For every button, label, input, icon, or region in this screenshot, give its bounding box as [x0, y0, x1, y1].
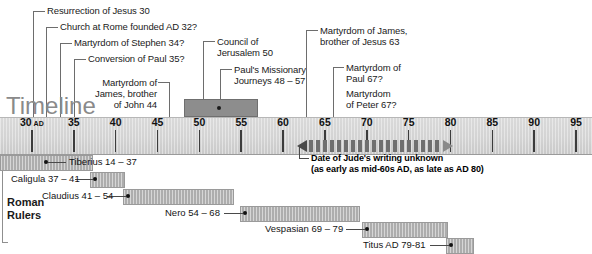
ruler-dot-claudius: [126, 194, 130, 198]
axis-tick-label-85: 85: [487, 116, 499, 128]
ruler-label-caligula: Caligula 37 – 41: [11, 173, 80, 184]
ruler-bar-claudius: [123, 189, 234, 205]
event-label-paul-journeys: Paul's Missionary Journeys 48 – 57: [234, 64, 306, 86]
axis-tick-label-40: 40: [110, 116, 122, 128]
axis-tick-label-95: 95: [570, 116, 582, 128]
ruler-bar-nero: [240, 206, 360, 222]
axis-tick-label-45: 45: [152, 116, 164, 128]
leader-v-james-jesus: [306, 30, 307, 118]
ruler-label-vespasian: Vespasian 69 – 79: [265, 223, 343, 234]
axis-tick-label-75: 75: [403, 116, 415, 128]
axis-tick-90: [533, 130, 535, 152]
ruler-label-claudius: Claudius 41 – 54: [42, 190, 113, 201]
axis-tick-35: [73, 130, 75, 152]
axis-tick-95: [575, 130, 577, 152]
axis-tick-label-30: 30 AD: [20, 116, 44, 128]
event-label-stephen: Martyrdom of Stephen 34?: [74, 38, 184, 49]
ruler-leader-titus: [430, 245, 449, 246]
leader-h-council: [203, 41, 215, 42]
jude-caption-line1: Date of Jude's writing unknown: [311, 153, 443, 164]
ruler-dot-vespasian: [365, 227, 369, 231]
event-label-peter-martyrdom: Martyrdom of Peter 67?: [346, 88, 397, 110]
ruler-label-titus: Titus AD 79-81: [363, 239, 425, 250]
leader-h-paul-journeys: [220, 69, 232, 70]
jude-leader-v: [299, 146, 300, 158]
jude-caption-line2: (as early as mid-60s AD, as late as AD 8…: [311, 164, 484, 175]
leader-v-paul-martyrdom: [333, 67, 334, 118]
event-label-james-jesus: Martyrdom of James, brother of Jesus 63: [320, 25, 407, 47]
ruler-leader-nero: [224, 213, 243, 214]
ruler-bar-vespasian: [362, 222, 448, 238]
ruler-label-tiberius: Tiberius 14 – 37: [69, 156, 137, 167]
jude-range-arrow: [296, 138, 461, 154]
jude-leader-h: [299, 158, 309, 159]
event-bar-paul-journeys: [184, 99, 258, 117]
leader-h-james-jesus: [306, 30, 318, 31]
axis-tick-55: [240, 130, 242, 152]
leader-h-stephen: [60, 43, 72, 44]
event-label-council-jerusalem: Council of Jerusalem 50: [217, 36, 273, 58]
axis-tick-label-50: 50: [194, 116, 206, 128]
event-bar-marker-dot: [217, 106, 221, 110]
event-label-paul-martyrdom: Martyrdom of Paul 67?: [346, 62, 401, 84]
ruler-dot-caligula: [93, 177, 97, 181]
axis-tick-label-90: 90: [528, 116, 540, 128]
ruler-dot-titus: [449, 243, 453, 247]
event-label-church-rome: Church at Rome founded AD 32?: [60, 22, 197, 33]
ruler-leader-vespasian: [346, 229, 365, 230]
axis-tick-label-55: 55: [235, 116, 247, 128]
axis-tick-label-65: 65: [319, 116, 331, 128]
leader-h-resurrection: [33, 11, 45, 12]
axis-tick-era-suffix: AD: [32, 120, 44, 127]
leader-h-church-rome: [46, 27, 58, 28]
axis-tick-30: [31, 130, 33, 152]
event-label-conversion-paul: Conversion of Paul 35?: [88, 54, 185, 65]
axis-tick-label-70: 70: [361, 116, 373, 128]
ruler-dot-nero: [243, 211, 247, 215]
leader-v-james-john: [169, 82, 170, 118]
axis-tick-label-60: 60: [277, 116, 289, 128]
axis-tick-40: [115, 130, 117, 152]
axis-tick-45: [157, 130, 159, 152]
axis-tick-60: [282, 130, 284, 152]
ruler-label-nero: Nero 54 – 68: [165, 207, 220, 218]
axis-tick-50: [199, 130, 201, 152]
axis-tick-label-80: 80: [445, 116, 457, 128]
roman-rulers-title: Roman Rulers: [7, 196, 44, 221]
axis-tick-85: [492, 130, 494, 152]
ruler-leader-tiberius: [48, 162, 66, 163]
leader-h-conversion-paul: [74, 59, 86, 60]
event-label-resurrection: Resurrection of Jesus 30: [47, 6, 150, 17]
leader-h-paul-martyrdom: [333, 67, 344, 68]
axis-tick-label-35: 35: [68, 116, 80, 128]
